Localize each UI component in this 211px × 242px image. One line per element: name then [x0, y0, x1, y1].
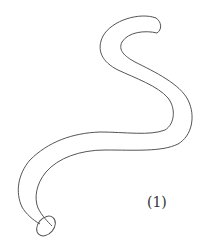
figure-label: (1) [147, 194, 167, 210]
tube-open-end [33, 212, 59, 239]
tube-outline-upper [18, 16, 173, 224]
tube-outline-lower [36, 32, 192, 226]
tube-drawing [0, 0, 211, 242]
tube-top-cap [156, 18, 161, 33]
